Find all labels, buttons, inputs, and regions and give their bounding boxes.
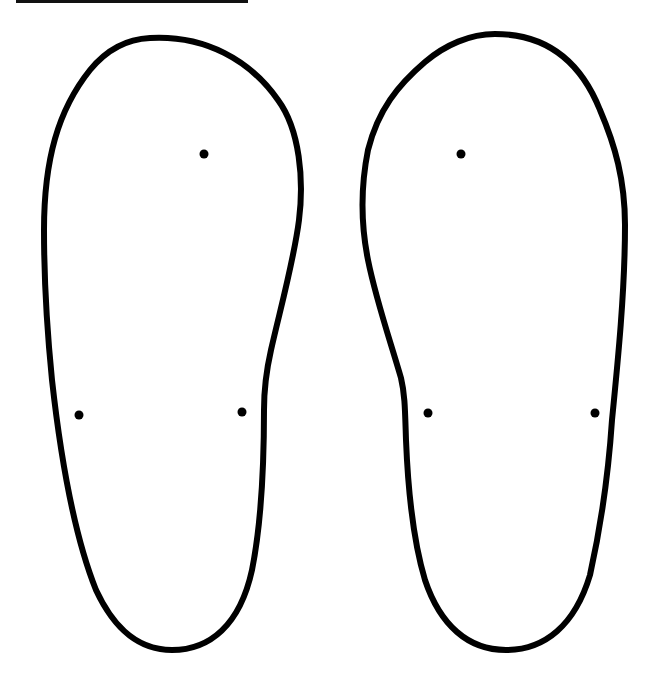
left-sole-outline bbox=[44, 38, 301, 650]
left-sole-dot-outer-side bbox=[238, 408, 247, 417]
left-sole-dot-inner-side bbox=[75, 411, 84, 420]
right-sole-outline bbox=[363, 34, 625, 650]
right-sole-dot-toe bbox=[457, 150, 466, 159]
sole-template-drawing bbox=[0, 0, 660, 685]
right-sole-dot-inner-side bbox=[424, 409, 433, 418]
left-sole-dot-toe bbox=[200, 150, 209, 159]
right-sole-dot-outer-side bbox=[591, 409, 600, 418]
